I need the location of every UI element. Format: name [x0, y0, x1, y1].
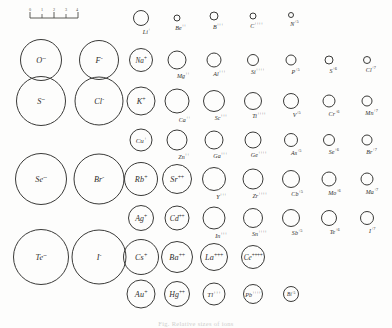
ion-circle-in	[203, 207, 226, 230]
ion-charge: ++++	[258, 150, 267, 155]
ion-symbol: Y	[216, 194, 219, 200]
ion-circle-ce	[241, 245, 265, 269]
ion-circle-v	[283, 93, 299, 109]
ion-charge: +6	[335, 147, 339, 152]
ion-label-in: In+++	[215, 231, 227, 239]
ion-circle-la	[200, 243, 228, 271]
ion-circle-se	[15, 153, 67, 205]
ion-label-sn: Sn++++	[252, 229, 267, 237]
ion-circle-n	[288, 12, 294, 18]
ion-charge: ++++	[258, 191, 267, 196]
ion-symbol: P	[292, 69, 296, 75]
ion-symbol: Cl	[366, 67, 372, 73]
ion-symbol: Cb	[291, 191, 298, 197]
ion-symbol: Zn	[178, 154, 185, 160]
ion-symbol: Sc	[215, 115, 221, 121]
ion-charge: +7	[371, 226, 375, 231]
ion-circle-as	[284, 133, 298, 147]
ion-charge: +5	[294, 19, 298, 24]
ion-circle-cb	[282, 170, 300, 188]
ion-symbol: Ma	[366, 189, 374, 195]
ion-label-s: S+6	[329, 66, 336, 74]
ion-symbol: B	[213, 24, 217, 30]
ion-label-sb: Sb+5	[292, 228, 302, 236]
ion-charge: +5	[297, 148, 301, 153]
ion-symbol: Zr	[252, 193, 258, 199]
scale-bar: 0 1 2 3 4	[28, 8, 82, 22]
ion-charge: ++	[186, 115, 190, 120]
ion-label-cr: Cr+6	[329, 109, 340, 117]
svg-text:4: 4	[76, 8, 79, 12]
ion-symbol: Al	[213, 71, 219, 77]
ion-label-ge: Ge++++	[251, 150, 267, 158]
ion-charge: +7	[374, 108, 378, 113]
ion-circle-o	[20, 39, 62, 81]
ion-charge: +6	[335, 109, 339, 114]
ion-label-br: Br+7	[366, 147, 376, 155]
ion-label-cl: Cl+7	[366, 65, 376, 73]
ion-circle-cu	[130, 129, 153, 152]
ion-circle-te	[321, 210, 337, 226]
ion-circle-s	[16, 76, 66, 126]
scale-bar-graphic: 0 1 2 3 4	[28, 8, 82, 22]
ion-charge: ++	[182, 23, 186, 28]
ion-label-te: Te+6	[330, 227, 340, 235]
ion-circle-cr	[323, 95, 336, 108]
ion-circle-mn	[362, 96, 373, 107]
ion-label-zr: Zr++++	[252, 191, 266, 199]
ion-label-cb: Cb+5	[291, 189, 302, 197]
ion-circle-i	[72, 230, 127, 285]
ion-charge: ++++	[254, 21, 263, 26]
ion-charge: +5	[296, 110, 300, 115]
ion-symbol: S	[329, 68, 332, 74]
ion-label-mn: Mn+7	[365, 108, 377, 116]
ion-circle-se	[323, 134, 335, 146]
ion-circle-mg	[168, 51, 187, 70]
ion-label-y: Y+++	[216, 192, 226, 200]
ion-charge: +5	[299, 189, 303, 194]
ion-circle-br	[74, 154, 125, 205]
ion-symbol: Mn	[365, 110, 373, 116]
ion-circle-al	[207, 53, 222, 68]
ion-symbol: Sb	[292, 230, 298, 236]
ion-circle-y	[202, 167, 226, 191]
ion-charge: +6	[333, 66, 337, 71]
ion-circle-au	[127, 280, 156, 309]
ion-label-n: N+5	[290, 19, 298, 27]
ion-label-p: P+5	[292, 67, 300, 75]
ion-symbol: Mo	[328, 190, 336, 196]
ion-label-li: Li+	[143, 27, 150, 35]
ion-circle-te	[13, 229, 69, 285]
ion-circle-ga	[205, 131, 224, 150]
ion-symbol: Sn	[252, 231, 258, 237]
ion-circle-sn	[243, 208, 263, 228]
ion-circle-ag	[128, 205, 154, 231]
ion-symbol: Ga	[213, 153, 221, 159]
ion-label-mg: Mg++	[177, 71, 189, 79]
ion-charge: ++	[185, 71, 189, 76]
ion-circle-mo	[322, 172, 337, 187]
ion-circle-bi	[283, 286, 299, 302]
ion-symbol: Ca	[179, 117, 186, 123]
ion-charge: +++	[220, 231, 226, 236]
ion-circle-ti	[244, 92, 262, 110]
ion-label-v: V+5	[293, 110, 301, 118]
ion-symbol: V	[293, 112, 297, 118]
ion-circle-li	[133, 10, 149, 26]
ion-charge: ++++	[256, 67, 265, 72]
ion-symbol: Mg	[177, 73, 185, 79]
ion-symbol: N	[290, 21, 294, 27]
ion-symbol: Li	[143, 29, 148, 35]
ion-circle-cl	[363, 56, 371, 64]
ion-label-sc: Sc+++	[215, 113, 227, 121]
ion-symbol: Se	[329, 149, 335, 155]
ion-charge: +5	[295, 67, 299, 72]
ion-circle-sb	[282, 209, 300, 227]
ion-label-be: Be++	[175, 23, 186, 31]
ion-charge: +	[148, 27, 150, 32]
ion-charge: +++	[217, 22, 223, 27]
ion-symbol: Ti	[252, 113, 257, 119]
svg-text:2: 2	[53, 8, 55, 12]
ion-circle-cs	[123, 239, 159, 275]
ion-circle-ca	[165, 89, 190, 114]
